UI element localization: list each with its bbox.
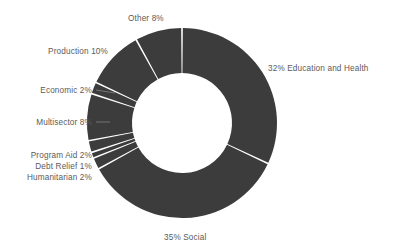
slice-label-social: 35% Social [164, 232, 206, 243]
slice-label-multisector: Multisector 8% [0, 117, 92, 128]
slice-label-production: Production 10% [0, 46, 108, 57]
donut-slice-social[interactable] [99, 145, 267, 218]
slice-label-stack-bottom: Program Aid 2% Debt Relief 1% Humanitari… [0, 150, 92, 183]
donut-slice-education-and-health[interactable] [182, 28, 277, 163]
slice-label-education-and-health: 32% Education and Health [268, 63, 369, 74]
donut-chart-figure: 32% Education and Health 35% Social Othe… [0, 0, 396, 248]
slice-label-debt-relief: Debt Relief 1% [0, 161, 92, 172]
donut-slice-group [87, 28, 277, 218]
slice-label-economic: Economic 2% [0, 85, 92, 96]
slice-label-program-aid: Program Aid 2% [0, 150, 92, 161]
slice-label-other: Other 8% [128, 13, 164, 24]
slice-label-humanitarian: Humanitarian 2% [0, 172, 92, 183]
